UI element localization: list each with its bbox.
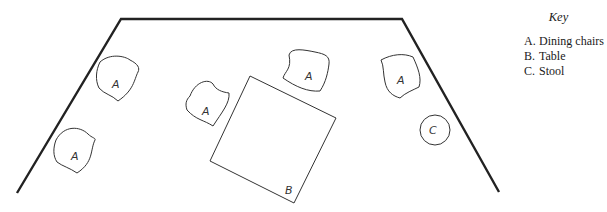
dining-chair: A (283, 50, 329, 91)
key-label: Stool (539, 64, 564, 78)
floor-plan-diagram: A A A A A B C (0, 0, 607, 212)
dining-chair: A (54, 128, 95, 173)
dining-chair: A (186, 81, 229, 126)
key-label: Table (539, 49, 565, 63)
room-wall-outline (17, 19, 499, 193)
key-label: Dining chairs (539, 34, 604, 48)
chair-label: A (201, 105, 210, 118)
dining-chair: A (96, 56, 138, 101)
chair-label: A (304, 70, 313, 83)
key-letter: A. (524, 34, 539, 49)
chair-label: A (396, 74, 405, 87)
table-label: B (285, 184, 293, 197)
chair-label: A (111, 78, 120, 91)
key-item-table: B.Table (524, 49, 607, 64)
chair-label: A (70, 150, 79, 163)
dining-chair: A (381, 55, 420, 98)
stool: C (420, 115, 450, 145)
key-title: Key (510, 10, 607, 25)
stool-label: C (429, 124, 437, 137)
key-item-stool: C.Stool (524, 64, 607, 79)
key-item-dining-chairs: A.Dining chairs (524, 34, 607, 49)
key-legend: Key A.Dining chairs B.Table C.Stool (524, 10, 607, 79)
key-letter: C. (524, 64, 539, 79)
key-letter: B. (524, 49, 539, 64)
